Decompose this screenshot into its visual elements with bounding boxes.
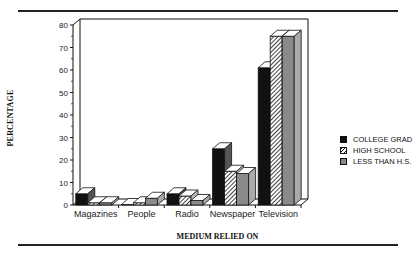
- category-label: Television: [258, 209, 298, 219]
- chart-bars: [76, 30, 301, 205]
- bar-chart: 01020304050607080 MagazinesPeopleRadioNe…: [0, 0, 415, 254]
- category-label: Magazines: [74, 209, 118, 219]
- legend-swatch-gray: [340, 158, 347, 165]
- category-labels: MagazinesPeopleRadioNewspaperTelevision: [74, 209, 298, 219]
- svg-text:30: 30: [59, 134, 68, 143]
- svg-text:40: 40: [59, 111, 68, 120]
- legend: COLLEGE GRAD HIGH SCHOOL LESS THAN H.S.: [340, 134, 412, 167]
- svg-text:50: 50: [59, 89, 68, 98]
- legend-swatch-hatched: [340, 147, 347, 154]
- svg-text:70: 70: [59, 44, 68, 53]
- legend-item-college-grad: COLLEGE GRAD: [340, 134, 412, 145]
- legend-item-less-than-hs: LESS THAN H.S.: [340, 156, 412, 167]
- svg-text:60: 60: [59, 66, 68, 75]
- svg-text:0: 0: [64, 201, 69, 210]
- svg-text:20: 20: [59, 156, 68, 165]
- legend-item-high-school: HIGH SCHOOL: [340, 145, 412, 156]
- svg-text:80: 80: [59, 21, 68, 30]
- y-axis-label: PERCENTAGE: [6, 90, 15, 147]
- x-axis-label: MEDIUM RELIED ON: [0, 232, 415, 241]
- svg-text:10: 10: [59, 179, 68, 188]
- category-label: Newspaper: [210, 209, 256, 219]
- legend-swatch-solid: [340, 136, 347, 143]
- category-label: Radio: [175, 209, 199, 219]
- category-label: People: [127, 209, 155, 219]
